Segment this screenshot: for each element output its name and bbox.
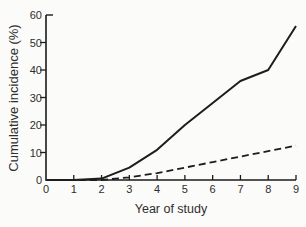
y-tick-label-10: 10 bbox=[30, 147, 42, 159]
cumulative-incidence-chart: 01234567890102030405060 Cumulative incid… bbox=[0, 0, 306, 227]
x-tick-label-7: 7 bbox=[237, 183, 243, 195]
x-tick-label-6: 6 bbox=[210, 183, 216, 195]
y-tick-label-30: 30 bbox=[30, 92, 42, 104]
y-tick-label-50: 50 bbox=[30, 37, 42, 49]
y-axis-label: Cumulative incidence (%) bbox=[6, 24, 21, 171]
y-tick-label-20: 20 bbox=[30, 119, 42, 131]
solid-series-line bbox=[46, 26, 296, 180]
y-tick-label-0: 0 bbox=[36, 174, 42, 186]
dashed-series-line bbox=[46, 146, 296, 180]
y-tick-label-60: 60 bbox=[30, 9, 42, 21]
x-tick-label-3: 3 bbox=[126, 183, 132, 195]
x-tick-label-2: 2 bbox=[98, 183, 104, 195]
y-tick-label-40: 40 bbox=[30, 64, 42, 76]
axis-spines bbox=[46, 15, 296, 180]
x-tick-label-1: 1 bbox=[71, 183, 77, 195]
x-tick-label-0: 0 bbox=[43, 183, 49, 195]
x-tick-label-4: 4 bbox=[154, 183, 160, 195]
x-tick-label-9: 9 bbox=[293, 183, 299, 195]
plot-svg: 01234567890102030405060 bbox=[0, 0, 306, 227]
x-tick-label-8: 8 bbox=[265, 183, 271, 195]
x-tick-label-5: 5 bbox=[182, 183, 188, 195]
x-axis-label: Year of study bbox=[135, 202, 208, 216]
